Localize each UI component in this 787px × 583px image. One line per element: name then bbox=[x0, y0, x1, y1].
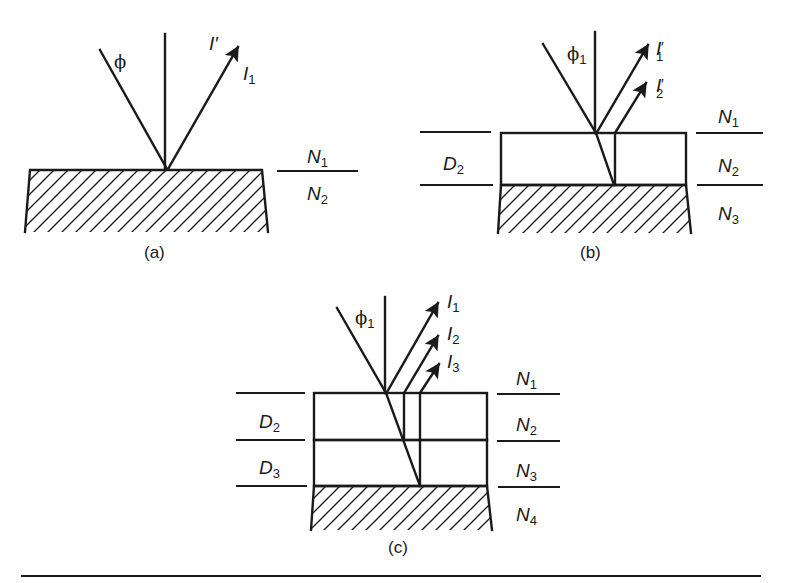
substrate-c bbox=[311, 486, 492, 530]
reflected-beam-b-2 bbox=[615, 83, 646, 133]
panel-c: ϕ1 I1 I2 I3 D2 D3 N1 N2 N3 N4 (c) bbox=[236, 291, 560, 557]
beam-label-c-2: I2 bbox=[447, 323, 460, 347]
medium-label-c-1: N1 bbox=[516, 368, 537, 392]
thickness-label-c-2: D3 bbox=[259, 457, 280, 481]
thickness-label-b-1: D2 bbox=[443, 153, 464, 177]
reflected-beam-c-3 bbox=[420, 364, 439, 393]
thickness-label-c-1: D2 bbox=[259, 411, 280, 435]
angle-label-c: ϕ1 bbox=[355, 307, 375, 331]
beam-label-b-2: I′2 bbox=[656, 75, 664, 101]
beam-label-c-1: I1 bbox=[447, 291, 460, 315]
substrate-b bbox=[498, 185, 691, 233]
reflected-beam-a bbox=[168, 47, 238, 169]
panel-a: ϕ I′ I1 N1 N2 (a) bbox=[25, 33, 358, 262]
beam-label-a-2: I1 bbox=[243, 63, 256, 87]
reflected-beam-c-2 bbox=[404, 336, 438, 393]
thin-film-reflection-figure: ϕ I′ I1 N1 N2 (a) ϕ1 I′1 I′2 D2 N1 N2 bbox=[0, 0, 787, 583]
refracted-beam-b bbox=[596, 133, 614, 185]
beam-label-c-3: I3 bbox=[447, 351, 460, 375]
caption-b: (b) bbox=[580, 243, 601, 262]
caption-a: (a) bbox=[144, 243, 165, 262]
angle-label-b: ϕ1 bbox=[567, 43, 587, 67]
medium-label-a-1: N1 bbox=[307, 146, 328, 170]
beam-label-a-1: I′ bbox=[209, 33, 219, 54]
incident-beam-a bbox=[100, 50, 167, 169]
medium-label-a-2: N2 bbox=[307, 183, 328, 207]
film-layer-c-2 bbox=[314, 440, 487, 486]
medium-label-b-2: N2 bbox=[718, 155, 739, 179]
angle-label-a: ϕ bbox=[114, 51, 126, 72]
beam-label-b-1: I′1 bbox=[656, 38, 664, 64]
film-layer-b bbox=[501, 133, 686, 185]
medium-label-c-3: N3 bbox=[516, 460, 537, 484]
caption-c: (c) bbox=[388, 538, 408, 557]
panel-b: ϕ1 I′1 I′2 D2 N1 N2 N3 (b) bbox=[420, 32, 763, 262]
medium-label-b-3: N3 bbox=[718, 203, 739, 227]
medium-label-c-4: N4 bbox=[516, 504, 537, 528]
medium-label-b-1: N1 bbox=[718, 106, 739, 130]
medium-label-c-2: N2 bbox=[516, 414, 537, 438]
substrate-a bbox=[25, 170, 268, 232]
